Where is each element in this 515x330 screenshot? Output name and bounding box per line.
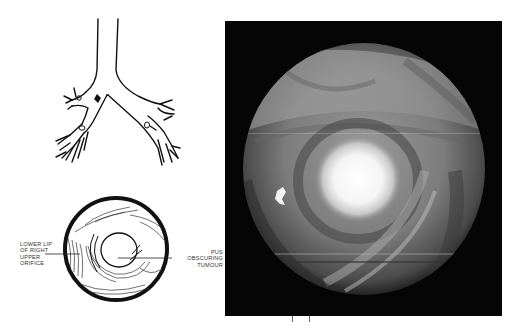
label-line: TUMOUR [172,262,223,268]
tick-mark [292,316,293,322]
label-pus-obscuring-tumour: PUS OBSCURING TUMOUR [172,249,223,268]
label-line: OF RIGHT [20,247,52,253]
label-line: ORIFICE [20,260,52,266]
arrow-marker-icon [94,94,101,103]
label-lower-lip-right-upper-orifice: LOWER LIP OF RIGHT UPPER ORIFICE [20,241,52,267]
bronchoscopy-photo [225,21,502,316]
tick-mark [309,316,310,322]
bronchial-tree-diagram [0,0,220,180]
